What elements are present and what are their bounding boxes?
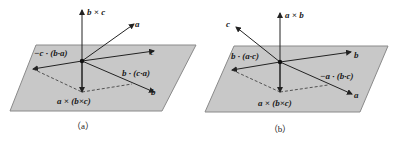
caption-a: （a）: [72, 121, 94, 131]
vector-triple-product-diagram: b × c a c b −c · (b·a) b · (c·a) a × (b×…: [0, 0, 397, 143]
label-vec-a-b: a: [354, 90, 359, 100]
label-proj-left-a: −c · (b·a): [34, 48, 67, 58]
label-vec-c-b: c: [226, 19, 230, 29]
label-normal-b: a × b: [285, 10, 304, 20]
label-vec-b-a: b: [151, 87, 156, 97]
label-proj-left-b: b · (a·c): [231, 51, 259, 61]
caption-b: （b）: [269, 124, 292, 134]
panel-b: a × b c b a b · (a·c) −a · (b·c) a × (b×…: [205, 10, 388, 134]
panel-a: b × c a c b −c · (b·a) b · (c·a) a × (b×…: [10, 7, 196, 131]
label-triple-b: a × (b×c): [258, 98, 292, 108]
origin-dot-b: [278, 60, 282, 64]
label-vec-b-b: b: [354, 50, 359, 60]
label-proj-right-b: −a · (b·c): [320, 71, 353, 81]
origin-dot-a: [80, 59, 84, 63]
label-vec-a-a: a: [135, 19, 140, 29]
label-normal-a: b × c: [87, 7, 105, 17]
label-proj-right-a: b · (c·a): [122, 68, 150, 78]
label-vec-c-a: c: [150, 47, 154, 57]
label-triple-a: a × (b×c): [57, 96, 91, 106]
